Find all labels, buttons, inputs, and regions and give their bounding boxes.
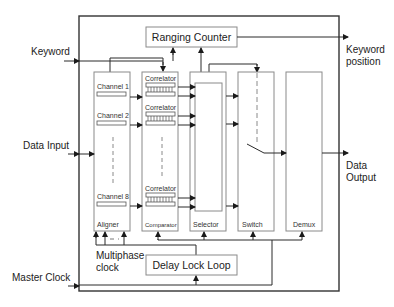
selector-inner-box xyxy=(195,83,222,211)
demux-block xyxy=(286,72,322,231)
channel-2-label: Channel 2 xyxy=(97,112,129,120)
demux-label: Demux xyxy=(293,221,315,229)
master-clock-label: Master Clock xyxy=(12,272,70,284)
channel-8-label: Channel 8 xyxy=(97,193,129,201)
correlator-8-label: Correlator xyxy=(145,185,176,193)
correlator-2-label: Correlator xyxy=(145,104,176,112)
channel-1-label: Channel 1 xyxy=(97,83,129,91)
switch-label: Switch xyxy=(242,221,263,229)
data-output-label-1: Data xyxy=(346,160,367,172)
channel-2-bar xyxy=(97,121,126,125)
aligner-label: Aligner xyxy=(97,221,119,229)
switch-block xyxy=(238,72,274,231)
selector-label: Selector xyxy=(193,221,219,229)
keyword-input-label: Keyword xyxy=(31,46,70,58)
comparator-label: Comparator xyxy=(145,222,177,229)
ranging-counter-label: Ranging Counter xyxy=(146,31,237,43)
data-output-label-2: Output xyxy=(346,172,376,184)
channel-8-bar xyxy=(97,202,126,206)
delay-lock-loop-label: Delay Lock Loop xyxy=(146,259,237,271)
data-input-label: Data Input xyxy=(23,140,69,152)
keyword-position-label-2: position xyxy=(346,56,380,68)
keyword-position-label-1: Keyword xyxy=(346,44,385,56)
correlator-1-label: Correlator xyxy=(145,75,176,83)
multiphase-clock-label-2: clock xyxy=(96,262,119,274)
channel-1-bar xyxy=(97,92,126,96)
multiphase-clock-label-1: Multiphase xyxy=(96,250,144,262)
